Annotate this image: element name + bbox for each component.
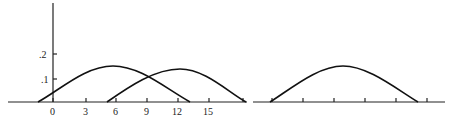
y-tick-label-0.1: .1: [41, 74, 49, 85]
chart: .2 .1 0 3 6 9 12 15: [0, 0, 457, 118]
x-tick-label-6: 6: [113, 106, 118, 117]
x-tick-label-3: 3: [83, 106, 88, 117]
x-tick-label-0: 0: [50, 106, 55, 117]
x-tick-label-15: 15: [203, 106, 213, 117]
x-tick-label-9: 9: [144, 106, 149, 117]
curve-3: [270, 66, 418, 102]
curve-2: [107, 69, 246, 102]
y-tick-label-0.2: .2: [39, 49, 47, 60]
x-tick-label-12: 12: [172, 106, 182, 117]
